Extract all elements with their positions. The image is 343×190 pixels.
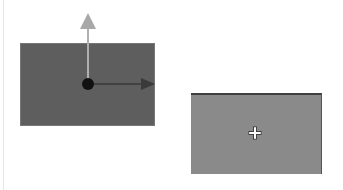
pivot-point-icon[interactable]	[82, 78, 94, 90]
x-axis-arrow[interactable]	[88, 78, 155, 90]
move-cursor-icon	[249, 127, 261, 139]
transform-gizmo[interactable]	[0, 0, 343, 190]
y-axis-arrow[interactable]	[80, 13, 96, 84]
